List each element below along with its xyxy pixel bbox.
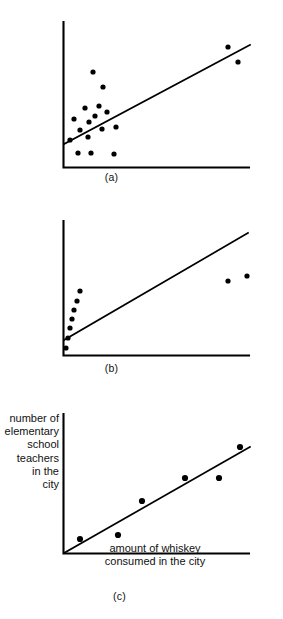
panel-caption-b: (b) — [0, 362, 253, 374]
panel-caption-c: (c) — [0, 590, 261, 602]
data-point — [67, 137, 72, 142]
data-point — [65, 335, 70, 340]
data-point — [182, 475, 188, 481]
data-points-a — [67, 44, 240, 156]
data-point — [96, 103, 101, 108]
data-point — [92, 113, 97, 118]
data-point — [235, 59, 240, 64]
data-point — [113, 124, 118, 129]
data-point — [77, 288, 82, 293]
data-point — [139, 498, 145, 504]
data-point — [75, 150, 80, 155]
axes-c — [64, 414, 250, 554]
axes-b — [64, 221, 250, 356]
data-point — [216, 475, 222, 481]
regression-line-b — [64, 233, 248, 340]
data-point — [71, 116, 76, 121]
data-point — [74, 298, 79, 303]
scatter-panel-a: (a) — [0, 0, 283, 200]
scatter-panel-c: number of elementary school teachers in … — [0, 390, 283, 619]
scatter-plot-a — [0, 0, 283, 200]
x-axis-label-c: amount of whiskey consumed in the city — [60, 542, 250, 568]
data-point — [71, 307, 76, 312]
data-point — [77, 127, 82, 132]
data-point — [104, 109, 109, 114]
data-point — [86, 119, 91, 124]
data-points-c — [77, 444, 243, 542]
data-point — [67, 325, 72, 330]
data-point — [69, 316, 74, 321]
data-point — [244, 273, 249, 278]
data-point — [63, 345, 68, 350]
data-point — [225, 44, 230, 49]
data-point — [99, 126, 104, 131]
data-points-b — [63, 273, 249, 350]
regression-line-c — [64, 447, 250, 553]
scatter-panel-b: (b) — [0, 200, 283, 390]
data-point — [85, 134, 90, 139]
data-point — [88, 150, 93, 155]
y-axis-label-c: number of elementary school teachers in … — [2, 412, 59, 491]
data-point — [90, 69, 95, 74]
data-point — [237, 444, 243, 450]
data-point — [100, 84, 105, 89]
data-point — [111, 151, 116, 156]
data-point — [82, 105, 87, 110]
data-point — [115, 532, 121, 538]
regression-line-a — [64, 45, 250, 144]
data-point — [225, 278, 230, 283]
panel-caption-a: (a) — [0, 171, 253, 183]
figure-root: (a) (b) — [0, 0, 283, 619]
